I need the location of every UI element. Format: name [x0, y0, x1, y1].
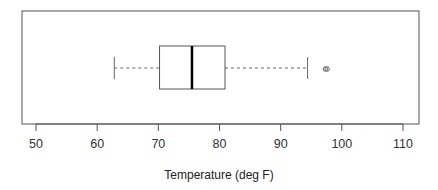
boxplot-chart: 5060708090100110 Temperature (deg F) — [0, 0, 438, 190]
x-tick-label: 110 — [393, 137, 413, 151]
x-tick-label: 70 — [151, 137, 165, 151]
x-axis: 5060708090100110 — [29, 124, 413, 151]
x-tick-label: 60 — [90, 137, 104, 151]
x-tick-label: 80 — [213, 137, 227, 151]
box-plot — [114, 46, 329, 89]
x-axis-title: Temperature (deg F) — [164, 168, 273, 182]
x-tick-label: 100 — [331, 137, 352, 151]
x-tick-label: 50 — [29, 137, 43, 151]
x-tick-label: 90 — [274, 137, 288, 151]
